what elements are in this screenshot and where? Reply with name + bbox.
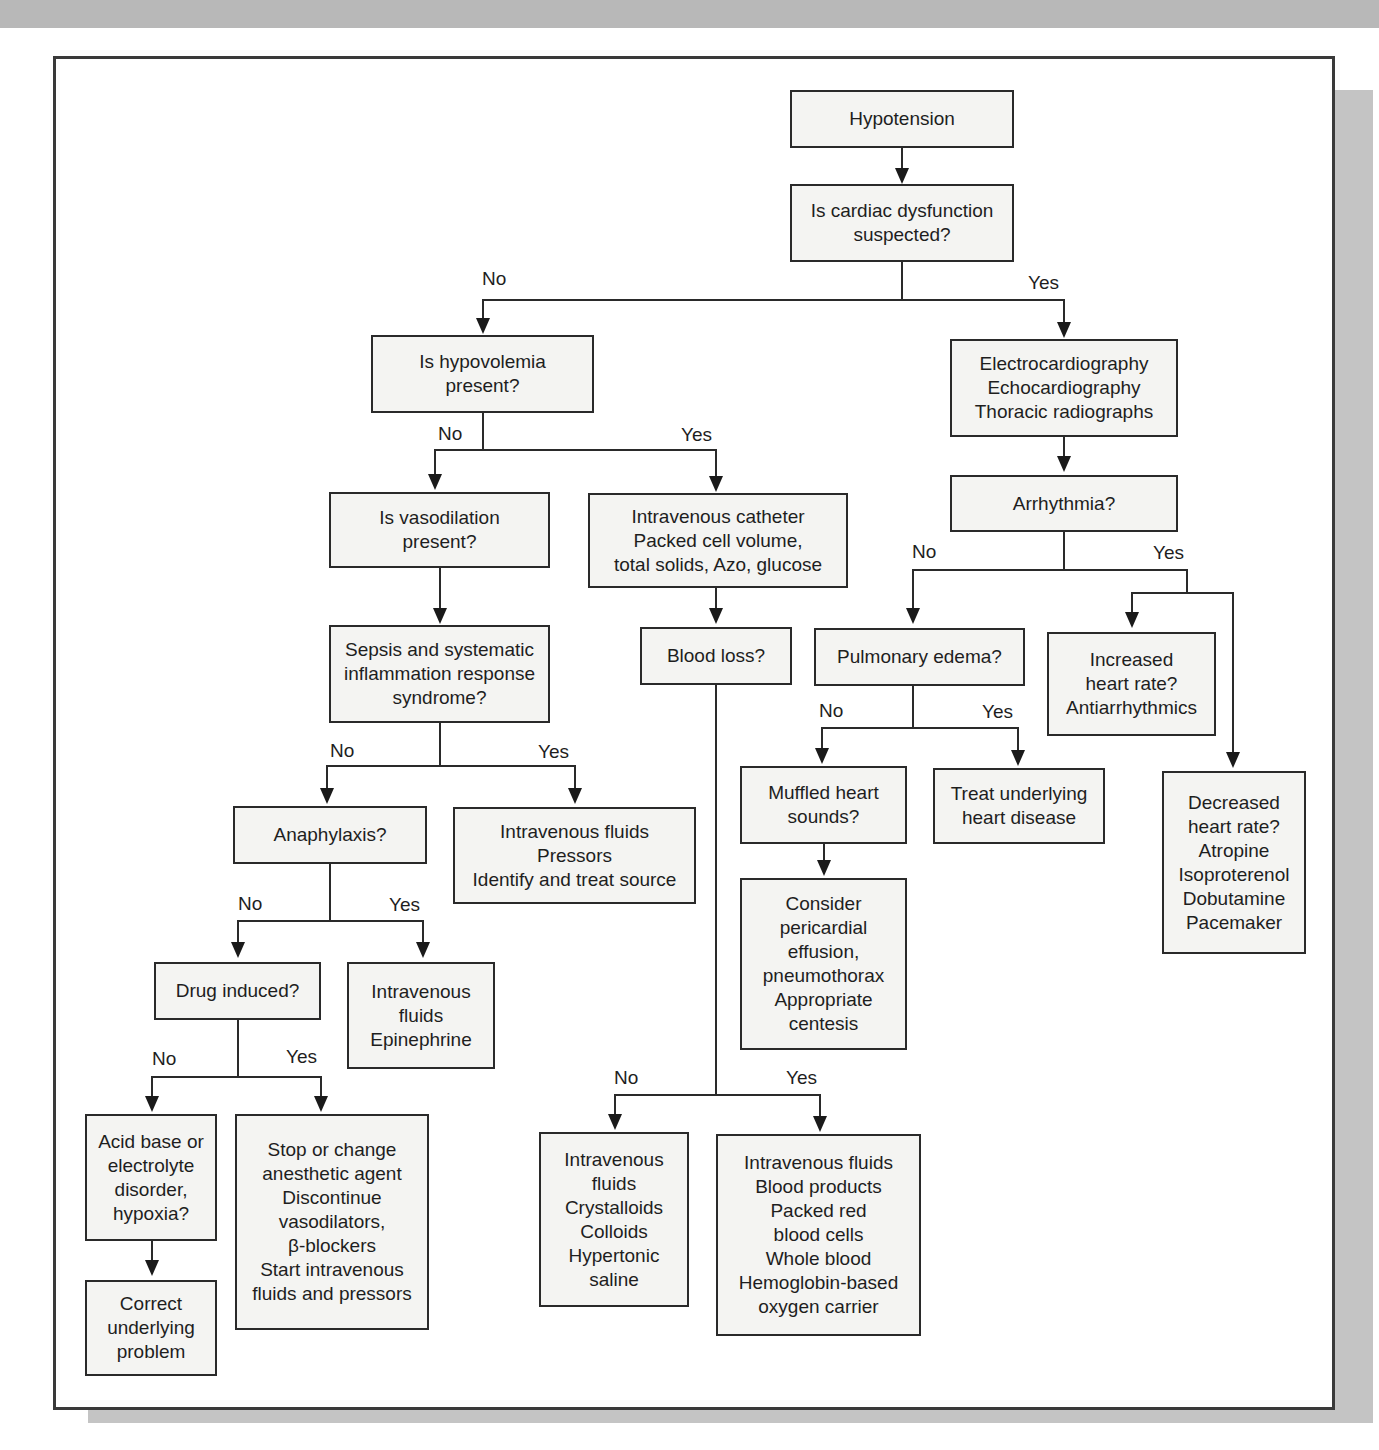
node-blood-loss-question: Blood loss? (640, 627, 792, 685)
label-blood-loss-yes: Yes (786, 1067, 817, 1089)
label-arrhythmia-yes: Yes (1153, 542, 1184, 564)
node-arrhythmia-question: Arrhythmia? (950, 475, 1178, 532)
node-cardiac-tests: Electrocardiography Echocardiography Tho… (950, 339, 1178, 437)
node-stop-anesthetic: Stop or change anesthetic agent Disconti… (235, 1114, 429, 1330)
label-hypovolemia-yes: Yes (681, 424, 712, 446)
node-cardiac-dysfunction-question: Is cardiac dysfunction suspected? (790, 184, 1014, 262)
node-treat-heart-disease: Treat underlying heart disease (933, 768, 1105, 844)
node-vasodilation-question: Is vasodilation present? (329, 492, 550, 568)
node-sepsis-question: Sepsis and systematic inflammation respo… (329, 625, 550, 723)
label-arrhythmia-no: No (912, 541, 936, 563)
node-acid-base-question: Acid base or electrolyte disorder, hypox… (85, 1114, 217, 1241)
label-sepsis-yes: Yes (538, 741, 569, 763)
label-drug-yes: Yes (286, 1046, 317, 1068)
node-decreased-heart-rate: Decreased heart rate? Atropine Isoproter… (1162, 771, 1306, 954)
node-muffled-heart-sounds-question: Muffled heart sounds? (740, 766, 907, 844)
node-increased-heart-rate: Increased heart rate? Antiarrhythmics (1047, 632, 1216, 736)
node-no-blood-loss-treatment: Intravenous fluids Crystalloids Colloids… (539, 1132, 689, 1307)
node-anaphylaxis-question: Anaphylaxis? (233, 806, 427, 864)
node-correct-underlying-problem: Correct underlying problem (85, 1280, 217, 1376)
node-drug-induced-question: Drug induced? (154, 962, 321, 1020)
label-anaphylaxis-yes: Yes (389, 894, 420, 916)
label-cardiac-no: No (482, 268, 506, 290)
label-hypovolemia-no: No (438, 423, 462, 445)
node-iv-catheter: Intravenous catheter Packed cell volume,… (588, 493, 848, 588)
node-hypovolemia-question: Is hypovolemia present? (371, 335, 594, 413)
label-drug-no: No (152, 1048, 176, 1070)
node-hypotension: Hypotension (790, 90, 1014, 148)
node-blood-loss-treatment: Intravenous fluids Blood products Packed… (716, 1134, 921, 1336)
node-anaphylaxis-treatment: Intravenous fluids Epinephrine (347, 962, 495, 1069)
label-pulmonary-yes: Yes (982, 701, 1013, 723)
label-anaphylaxis-no: No (238, 893, 262, 915)
label-cardiac-yes: Yes (1028, 272, 1059, 294)
label-pulmonary-no: No (819, 700, 843, 722)
node-sepsis-treatment: Intravenous fluids Pressors Identify and… (453, 807, 696, 904)
node-consider-effusion: Consider pericardial effusion, pneumotho… (740, 878, 907, 1050)
label-sepsis-no: No (330, 740, 354, 762)
node-pulmonary-edema-question: Pulmonary edema? (814, 628, 1025, 686)
label-blood-loss-no: No (614, 1067, 638, 1089)
